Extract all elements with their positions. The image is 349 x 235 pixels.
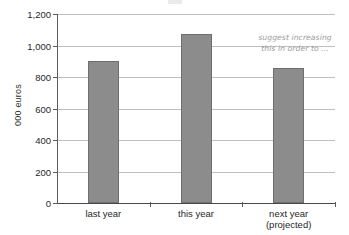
y-axis-tick <box>53 203 58 204</box>
gridline <box>57 14 335 15</box>
annotation-line: this in order to ... <box>243 44 347 55</box>
y-axis-tick <box>53 109 58 110</box>
y-axis-tick-label: 1,000 <box>27 40 51 51</box>
annotation-line: suggest increasing <box>243 33 347 44</box>
y-axis-tick <box>53 14 58 15</box>
x-axis-label-line: next year <box>239 208 339 219</box>
bar[interactable] <box>88 61 119 203</box>
x-axis-end-tick <box>335 202 336 207</box>
y-axis-tick-label: 1,200 <box>27 9 51 20</box>
y-axis-title: 000 euros <box>13 45 23 165</box>
y-axis-tick <box>53 46 58 47</box>
y-axis-tick <box>53 172 58 173</box>
bar-chart-figure: 000 euros 02004006008001,0001,200 last y… <box>0 0 349 235</box>
x-axis-label-line: this year <box>146 208 246 219</box>
x-axis-label-line: (projected) <box>239 219 339 230</box>
suggest-increasing-note: suggest increasingthis in order to ... <box>243 33 347 54</box>
y-axis-tick <box>53 77 58 78</box>
x-axis-label: last year <box>53 208 153 219</box>
y-axis-tick-label: 200 <box>35 166 51 177</box>
x-axis-category-separator <box>242 202 243 207</box>
y-axis-tick-label: 600 <box>35 103 51 114</box>
page-crop-artifact <box>168 0 182 4</box>
y-axis-tick <box>53 140 58 141</box>
y-axis-tick-label: 800 <box>35 72 51 83</box>
x-axis-label: next year(projected) <box>239 208 339 230</box>
bar[interactable] <box>273 68 304 203</box>
y-axis-tick-label: 400 <box>35 135 51 146</box>
x-axis-category-separator <box>150 202 151 207</box>
bar[interactable] <box>181 34 212 203</box>
x-axis-label: this year <box>146 208 246 219</box>
y-axis-tick-label: 0 <box>46 198 51 209</box>
x-axis-label-line: last year <box>53 208 153 219</box>
axis-baseline <box>57 203 335 204</box>
